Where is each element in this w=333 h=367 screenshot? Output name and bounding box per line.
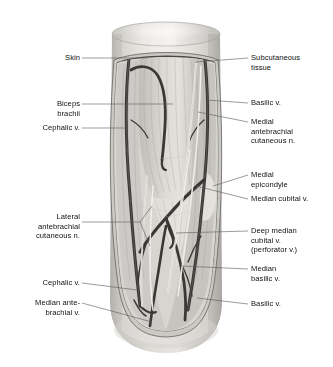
anatomical-figure: Skin Biceps brachii Cephalic v. Lateral … [0, 0, 333, 367]
label-lateral-antebrachial-cutaneous-nerve: Lateral antebrachial cutaneous n. [0, 212, 80, 241]
label-medial-antebrachial-cutaneous-nerve: Medial antebrachial cutaneous n. [251, 117, 333, 146]
label-skin: Skin [0, 53, 80, 63]
label-subcutaneous-tissue: Subcutaneous tissue [251, 53, 333, 72]
label-cephalic-vein-upper: Cephalic v. [0, 123, 80, 133]
label-basilic-vein-upper: Basilic v. [251, 98, 333, 108]
label-median-basilic-vein: Median basilic v. [251, 264, 333, 283]
label-biceps-brachii: Biceps brachii [0, 99, 80, 118]
label-medial-epicondyle: Medial epicondyle [251, 170, 333, 189]
label-basilic-vein-lower: Basilic v. [251, 299, 333, 309]
label-deep-median-cubital-vein: Deep median cubital v. (perforator v.) [251, 226, 333, 255]
label-cephalic-vein-lower: Cephalic v. [0, 278, 80, 288]
label-median-antebrachial-vein: Median ante- brachial v. [0, 298, 80, 317]
label-median-cubital-vein: Median cubital v. [251, 194, 333, 204]
